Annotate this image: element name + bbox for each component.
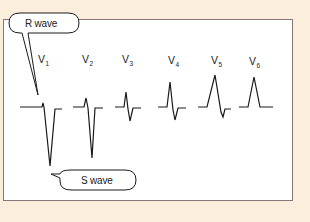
s-wave-callout: S wave [51,170,136,190]
svg-text:V: V [38,53,45,65]
lead-label-v4: V 4 [168,54,180,68]
svg-text:5: 5 [219,61,223,68]
waveform-v2 [73,98,103,158]
svg-text:V: V [249,55,256,67]
svg-text:S wave: S wave [81,175,113,186]
lead-label-v2: V 2 [82,53,94,67]
lead-label-v3: V 3 [122,53,134,67]
waveform-v3 [115,92,141,121]
lead-label-v1: V 1 [38,53,50,67]
lead-label-v6: V 6 [249,55,261,69]
waveform-v1 [20,103,62,166]
svg-text:V: V [168,54,175,66]
waveform-v4 [158,82,186,120]
svg-text:R wave: R wave [25,18,58,29]
lead-label-v5: V 5 [211,54,223,68]
waveform-v5 [198,75,231,117]
svg-text:V: V [82,53,89,65]
svg-text:V: V [211,54,218,66]
svg-text:6: 6 [257,62,261,69]
svg-text:4: 4 [176,61,180,68]
svg-text:2: 2 [90,60,94,67]
svg-text:3: 3 [130,60,134,67]
waveform-v6 [239,77,273,107]
ecg-diagram: V 1 V 2 V 3 V 4 V 5 V 6 R wave [0,0,310,222]
svg-text:V: V [122,53,129,65]
svg-text:1: 1 [46,60,50,67]
